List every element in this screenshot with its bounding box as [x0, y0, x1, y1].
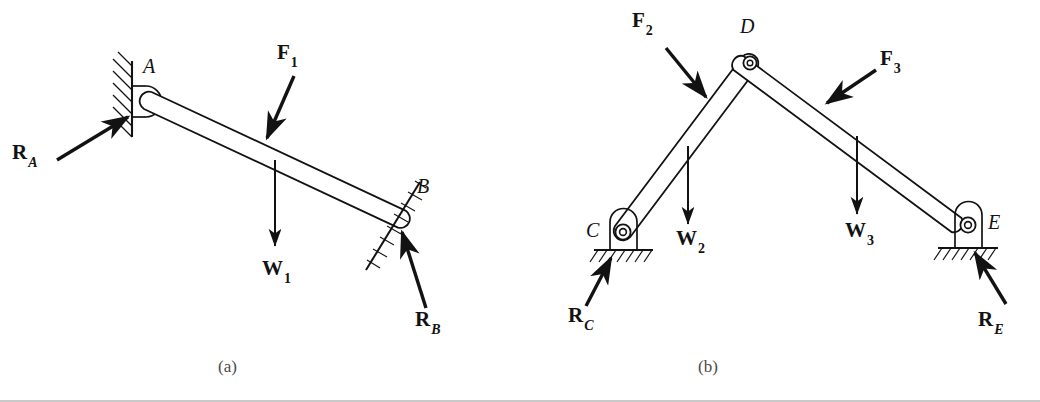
- force-label-f3-base: F: [880, 46, 893, 70]
- arrow-force-f3: [827, 70, 876, 103]
- arrow-force-f2: [666, 48, 706, 97]
- panel-a-group: [57, 52, 426, 308]
- force-label-rb-sub: B: [431, 322, 440, 337]
- force-label-w3-sub: 3: [867, 233, 874, 248]
- force-label-w2-base: W: [676, 226, 697, 250]
- force-label-rc-base: R: [568, 303, 583, 327]
- force-label-re-sub: E: [994, 322, 1003, 337]
- force-label-re-base: R: [978, 307, 993, 331]
- bar-cd: [614, 54, 759, 240]
- force-label-f2-sub: 2: [646, 23, 653, 38]
- arrow-reaction-re: [975, 253, 1006, 304]
- force-label-w1: W1: [262, 258, 290, 283]
- panel-b-group: [586, 48, 1006, 306]
- force-label-w1-sub: 1: [284, 271, 291, 286]
- point-label-a: A: [143, 56, 155, 76]
- point-label-b: B: [417, 176, 429, 196]
- force-label-ra: RA: [12, 142, 37, 167]
- force-label-rc-sub: C: [584, 318, 593, 333]
- force-label-rb-base: R: [415, 307, 430, 331]
- force-label-f2-base: F: [632, 8, 645, 32]
- force-label-w2: W2: [676, 228, 704, 253]
- arrow-force-f1: [267, 76, 294, 138]
- force-label-f1: F1: [277, 42, 297, 67]
- force-label-w3-base: W: [845, 218, 866, 242]
- force-label-re: RE: [978, 309, 1003, 334]
- force-label-f3: F3: [880, 48, 900, 73]
- pin-joint-d: [743, 56, 756, 69]
- caption-panel-a: (a): [218, 358, 237, 375]
- force-label-ra-base: R: [12, 140, 27, 164]
- figure-page: A B RA F1 W1 RB C D E F2 F3 W2 W3 RC RE …: [0, 0, 1040, 402]
- force-label-f1-base: F: [277, 40, 290, 64]
- caption-panel-b: (b): [698, 358, 718, 375]
- force-label-f3-sub: 3: [894, 61, 901, 76]
- force-label-w1-base: W: [262, 256, 283, 280]
- point-label-d: D: [740, 16, 754, 36]
- point-label-e: E: [988, 212, 1000, 232]
- force-label-w3: W3: [845, 220, 873, 245]
- bar-de: [732, 56, 963, 232]
- point-label-c: C: [586, 220, 599, 240]
- force-label-w2-sub: 2: [698, 241, 705, 256]
- arrow-reaction-ra: [57, 117, 128, 160]
- force-label-rc: RC: [568, 305, 593, 330]
- arrow-reaction-rc: [586, 258, 611, 306]
- arrow-reaction-rb: [402, 232, 426, 308]
- force-label-ra-sub: A: [28, 155, 37, 170]
- force-label-f2: F2: [632, 10, 652, 35]
- force-label-f1-sub: 1: [291, 55, 298, 70]
- force-label-rb: RB: [415, 309, 440, 334]
